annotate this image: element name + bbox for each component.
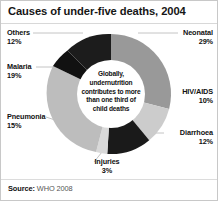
source-value: WHO 2008 [37,184,73,193]
slice-label-malaria-name: Malaria [7,62,31,71]
donut-chart: Globally, undernutrition contributes to … [1,24,218,179]
slice-label-neonatal-name: Neonatal [183,28,213,37]
slice-label-injuries: Injuries 3% [86,157,128,176]
slice-label-hivaids: HIV/AIDS 10% [182,87,213,106]
donut-hole [77,60,145,128]
slice-label-malaria-pct: 19% [7,71,31,80]
slice-label-others-pct: 12% [7,37,30,46]
slice-label-others-name: Others [7,28,30,37]
slice-label-pneumonia-name: Pneumonia [7,112,45,121]
slice-label-neonatal-pct: 29% [183,37,213,46]
page-title: Causes of under-five deaths, 2004 [8,5,186,17]
title-bar: Causes of under-five deaths, 2004 [1,1,218,24]
source-label: Source: [8,184,35,193]
slice-label-pneumonia: Pneumonia 15% [7,112,45,131]
source-bar: Source: WHO 2008 [1,179,218,201]
slice-label-diarrhoea-name: Diarrhoea [180,128,213,137]
slice-label-hivaids-pct: 10% [182,96,213,105]
source-text: Source: WHO 2008 [8,184,73,193]
slice-label-hivaids-name: HIV/AIDS [182,87,213,96]
slice-label-injuries-name: Injuries [94,157,119,166]
slice-label-neonatal: Neonatal 29% [183,28,213,47]
slice-label-others: Others 12% [7,28,30,47]
chart-card: Causes of under-five deaths, 2004 [0,0,218,201]
slice-label-injuries-pct: 3% [86,166,128,175]
slice-label-pneumonia-pct: 15% [7,121,45,130]
slice-label-diarrhoea: Diarrhoea 12% [180,128,213,147]
slice-label-diarrhoea-pct: 12% [180,137,213,146]
slice-label-malaria: Malaria 19% [7,62,31,81]
